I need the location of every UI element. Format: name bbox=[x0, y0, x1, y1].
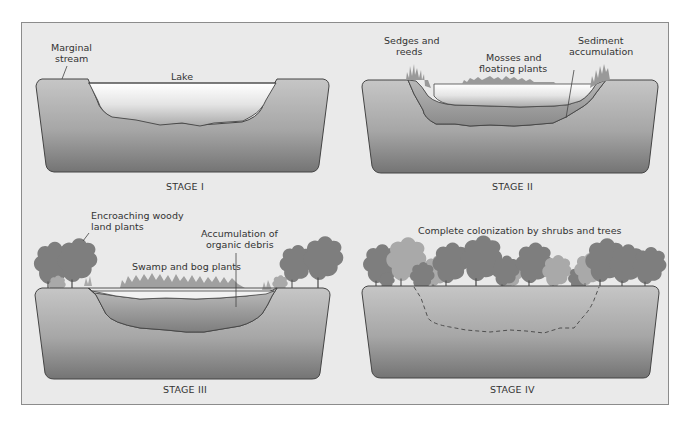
svg-text:floating plants: floating plants bbox=[479, 63, 547, 74]
svg-text:stream: stream bbox=[55, 53, 88, 64]
svg-text:organic debris: organic debris bbox=[206, 239, 274, 250]
floating-plants bbox=[462, 76, 556, 84]
label-woody-plants: Encroaching woody bbox=[91, 210, 184, 221]
label-sediment: Sediment bbox=[578, 35, 624, 46]
label-organic-debris: Accumulation of bbox=[201, 228, 279, 239]
lake-succession-diagram: Marginal stream Lake STAGE I Sedges and … bbox=[0, 0, 692, 422]
svg-text:reeds: reeds bbox=[396, 46, 422, 57]
swamp-bog-plants bbox=[120, 273, 245, 288]
label-lake: Lake bbox=[171, 71, 193, 82]
caption-stage-4: STAGE IV bbox=[490, 384, 535, 395]
stage-2-water bbox=[434, 84, 596, 107]
caption-stage-3: STAGE III bbox=[163, 384, 207, 395]
stage-1-panel: Marginal stream Lake STAGE I bbox=[36, 42, 329, 192]
marginal-stream-leader bbox=[62, 66, 67, 79]
caption-stage-1: STAGE I bbox=[166, 181, 204, 192]
label-colonization: Complete colonization by shrubs and tree… bbox=[418, 225, 622, 236]
caption-stage-2: STAGE II bbox=[492, 181, 533, 192]
stage-2-panel: Sedges and reeds Mosses and floating pla… bbox=[362, 35, 658, 192]
stage-4-panel: Complete colonization by shrubs and tree… bbox=[362, 225, 666, 395]
svg-text:land plants: land plants bbox=[91, 221, 144, 232]
svg-text:accumulation: accumulation bbox=[569, 46, 633, 57]
stage-3-panel: Encroaching woody land plants Accumulati… bbox=[34, 210, 343, 395]
label-swamp-plants: Swamp and bog plants bbox=[132, 261, 241, 272]
stage-4-ground bbox=[362, 286, 659, 378]
woody-plants-leader bbox=[83, 233, 89, 241]
label-marginal-stream: Marginal bbox=[51, 42, 92, 53]
label-sedges: Sedges and bbox=[384, 35, 440, 46]
label-mosses: Mosses and bbox=[486, 52, 542, 63]
trees-right bbox=[262, 236, 343, 296]
